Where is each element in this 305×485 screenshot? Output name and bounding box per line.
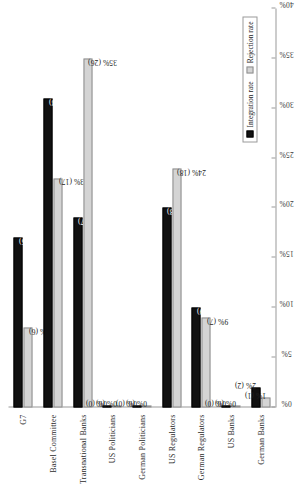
legend-item[interactable]: Integration rate [245, 81, 254, 137]
axis-tick [271, 356, 275, 357]
bar-value-label: 0% (0) [214, 399, 235, 408]
bar-row: 31% (28) [43, 8, 52, 407]
axis-tick-label: 20% [279, 199, 293, 208]
bar-group: 31% (28)23% (17) [38, 8, 68, 407]
bar-row: 1% (1) [261, 8, 270, 407]
chart-figure: G7Basel CommitteeTransnational BanksUS P… [0, 0, 305, 485]
bar-row: 9% (7) [201, 8, 210, 407]
bar-row: 8% (6) [23, 8, 32, 407]
axis-tick [271, 406, 275, 407]
bar-row: 0% (0) [231, 8, 240, 407]
axis-tick-label: 40% [279, 0, 293, 8]
legend-swatch-icon [246, 66, 253, 73]
bar-row: 17% (15) [13, 8, 22, 407]
legend-swatch-icon [246, 130, 253, 137]
bar-row: 0% (0) [112, 8, 121, 407]
bar-rejection[interactable]: 8% (6) [23, 327, 32, 407]
bar-row: 0% (0) [221, 8, 230, 407]
bar-integration[interactable]: 20% (18) [162, 208, 171, 408]
bar-group: 10% (9)9% (7) [186, 8, 216, 407]
bar-row: 20% (18) [162, 8, 171, 407]
axis-tick [271, 207, 275, 208]
bar-integration[interactable]: 19% (17) [73, 217, 82, 407]
axis-tick-label: 10% [279, 298, 293, 307]
chart-legend: Integration rateRejection rate [242, 16, 257, 142]
bar-row: 0% (0) [102, 8, 111, 407]
axis-tick [271, 306, 275, 307]
category-label: Basel Committee [38, 409, 68, 485]
bar-row: 35% (26) [83, 8, 92, 407]
bar-value-label: 0% (0) [96, 399, 117, 408]
axis-tick [271, 57, 275, 58]
axis-tick-label: 0% [281, 398, 291, 407]
category-label: US Regulators [156, 409, 186, 485]
bar-group: 17% (15)8% (6) [8, 8, 38, 407]
bar-row: 19% (17) [73, 8, 82, 407]
bar-row: 0% (0) [142, 8, 151, 407]
bar-group: 0% (0)0% (0) [127, 8, 157, 407]
bar-group: 0% (0)0% (0) [97, 8, 127, 407]
bar-group: 0% (0)0% (0) [216, 8, 246, 407]
category-label: German Banks [245, 409, 275, 485]
bar-value-label: 1% (1) [244, 391, 265, 400]
bar-integration[interactable]: 17% (15) [13, 237, 22, 407]
legend-label: Rejection rate [245, 21, 254, 63]
axis-tick [271, 256, 275, 257]
bar-rejection[interactable]: 35% (26) [83, 58, 92, 407]
bar-groups: 17% (15)8% (6)31% (28)23% (17)19% (17)35… [8, 8, 275, 407]
category-label: US Politicians [97, 409, 127, 485]
bar-row: 0% (0) [132, 8, 141, 407]
category-label: German Politicians [127, 409, 157, 485]
bar-value-label: 2% (2) [234, 381, 255, 390]
axis-tick-label: 5% [281, 348, 291, 357]
bar-value-label: 0% (0) [125, 399, 146, 408]
bar-group: 20% (18)24% (18) [156, 8, 186, 407]
bar-row: 24% (18) [172, 8, 181, 407]
bar-chart: G7Basel CommitteeTransnational BanksUS P… [0, 0, 305, 485]
bar-rejection[interactable]: 24% (18) [172, 168, 181, 407]
axis-tick-label: 25% [279, 149, 293, 158]
category-label: German Regulators [186, 409, 216, 485]
axis-tick [271, 7, 275, 8]
bar-integration[interactable]: 31% (28) [43, 98, 52, 407]
bar-rejection[interactable]: 9% (7) [201, 317, 210, 407]
plot-area: 17% (15)8% (6)31% (28)23% (17)19% (17)35… [8, 8, 275, 407]
axis-tick [271, 157, 275, 158]
category-label: G7 [8, 409, 38, 485]
axis-tick-label: 30% [279, 99, 293, 108]
category-label: Transnational Banks [67, 409, 97, 485]
axis-tick [271, 107, 275, 108]
legend-label: Integration rate [245, 81, 254, 127]
axis-tick-label: 35% [279, 49, 293, 58]
bar-row: 23% (17) [53, 8, 62, 407]
bar-integration[interactable]: 10% (9) [191, 307, 200, 407]
bar-rejection[interactable]: 23% (17) [53, 178, 62, 407]
bar-group: 19% (17)35% (26) [67, 8, 97, 407]
category-axis-labels: G7Basel CommitteeTransnational BanksUS P… [8, 409, 275, 485]
chart-rotation-wrapper: G7Basel CommitteeTransnational BanksUS P… [0, 0, 305, 485]
axis-tick-label: 15% [279, 248, 293, 257]
bar-row: 10% (9) [191, 8, 200, 407]
legend-item[interactable]: Rejection rate [245, 21, 254, 73]
category-label: US Banks [216, 409, 246, 485]
